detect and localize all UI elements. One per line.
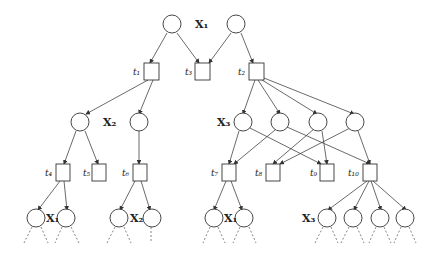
label-t8: t₈: [255, 169, 262, 178]
graph-canvas: [0, 0, 435, 258]
label-x2: X₂: [103, 117, 116, 128]
label-t2: t₂: [238, 68, 245, 77]
label-t5: t₅: [83, 169, 90, 178]
label-t7: t₇: [211, 169, 218, 178]
diagram: X₁ X₂ X₃ X₁ X₂ X₁ X₃ t₁ t₃ t₂ t₄ t₅ t₆ t…: [0, 0, 435, 258]
label-x1-top: X₁: [195, 19, 208, 30]
label-x2-bottom: X₂: [130, 213, 143, 224]
label-t6: t₆: [122, 169, 129, 178]
label-x1-bottom-mid: X₁: [224, 213, 237, 224]
dashed-continuations: [24, 227, 416, 243]
label-t9: t₉: [310, 169, 317, 178]
label-t3: t₃: [185, 68, 192, 77]
label-x3: X₃: [217, 117, 230, 128]
label-t10: t₁₀: [348, 169, 359, 178]
label-x3-bottom: X₃: [302, 213, 315, 224]
label-x1-bottom-left: X₁: [46, 213, 59, 224]
label-t4: t₄: [45, 169, 52, 178]
label-t1: t₁: [133, 68, 140, 77]
